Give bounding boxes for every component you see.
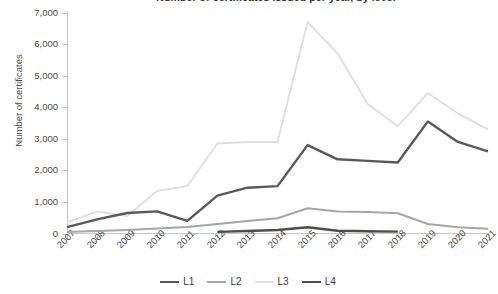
series-line-l1 [67,121,488,227]
x-axis-tick-label: 2009 [115,228,137,250]
y-axis-tick-label: 3,000 [0,134,58,144]
legend-label: L3 [278,277,289,287]
series-line-l3 [67,22,488,222]
y-axis-tick [62,202,67,203]
x-axis-tick-label: 2017 [356,228,378,250]
y-axis-tick [62,170,67,171]
legend-item-l3[interactable]: L3 [255,277,289,287]
legend-label: L1 [183,277,194,287]
x-axis-tick-label: 2020 [446,228,468,250]
x-axis-tick-label: 2013 [235,228,257,250]
y-axis-line [67,11,68,235]
legend-label: L2 [230,277,241,287]
y-axis-tick [62,107,67,108]
x-axis-tick-label: 2019 [416,228,438,250]
x-axis-tick-label: 2011 [175,229,196,250]
y-axis-tick-label: 4,000 [0,102,58,112]
x-axis-tick-label: 2008 [85,228,107,250]
x-axis-tick-label: 2021 [476,228,498,250]
x-axis-tick-label: 2010 [145,228,167,250]
y-axis-tick [62,13,67,14]
legend-item-l1[interactable]: L1 [160,277,194,287]
y-axis-tick [62,44,67,45]
legend-item-l4[interactable]: L4 [302,277,336,287]
x-axis-tick-label: 2012 [205,228,227,250]
x-axis-tick-label: 2016 [326,228,348,250]
chart-title: Number of certificates issued per year, … [66,0,486,3]
legend-swatch-icon [302,281,321,284]
y-axis-tick [62,139,67,140]
y-axis-tick-label: 7,000 [0,8,58,18]
chart-legend: L1L2L3L4 [0,277,496,287]
y-axis-tick-label: 2,000 [0,165,58,175]
y-axis-tick-label: 5,000 [0,71,58,81]
legend-item-l2[interactable]: L2 [207,277,241,287]
y-axis-tick [62,76,67,77]
legend-swatch-icon [207,281,226,284]
x-axis-tick-label: 2007 [55,228,77,250]
legend-swatch-icon [255,281,274,284]
y-axis-tick-label: 1,000 [0,197,58,207]
legend-swatch-icon [160,281,179,284]
legend-label: L4 [325,277,336,287]
y-axis-tick-label: 0 [0,229,58,239]
y-axis-tick-label: 6,000 [0,39,58,49]
y-axis-title: Number of certificates [13,31,24,171]
x-axis-tick-label: 2018 [386,228,408,250]
x-axis-tick-label: 2014 [266,228,288,250]
x-axis-tick-label: 2015 [296,228,318,250]
